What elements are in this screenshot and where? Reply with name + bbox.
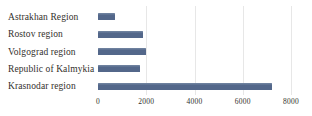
bar <box>98 31 143 38</box>
bar-chart: Astrakhan RegionRostov regionVolgograd r… <box>0 0 312 116</box>
bar-row <box>98 43 291 60</box>
bar <box>98 48 146 55</box>
bar-row <box>98 25 291 42</box>
plot-area <box>98 8 291 95</box>
x-tick-label: 8000 <box>283 97 299 106</box>
x-tick-label: 2000 <box>138 97 154 106</box>
category-label: Astrakhan Region <box>0 8 98 25</box>
category-label: Rostov region <box>0 25 98 42</box>
bars <box>98 8 291 95</box>
bar-row <box>98 8 291 25</box>
category-labels: Astrakhan RegionRostov regionVolgograd r… <box>0 8 98 95</box>
x-tick-label: 4000 <box>187 97 203 106</box>
bar-row <box>98 78 291 95</box>
bar <box>98 13 115 20</box>
bar-row <box>98 60 291 77</box>
gridline <box>291 6 292 95</box>
category-label: Krasnodar region <box>0 78 98 95</box>
x-tick-label: 6000 <box>235 97 251 106</box>
category-label: Volgograd region <box>0 43 98 60</box>
bar <box>98 83 272 90</box>
bar <box>98 65 140 72</box>
x-tick-label: 0 <box>96 97 100 106</box>
category-label: Republic of Kalmykia <box>0 60 98 77</box>
